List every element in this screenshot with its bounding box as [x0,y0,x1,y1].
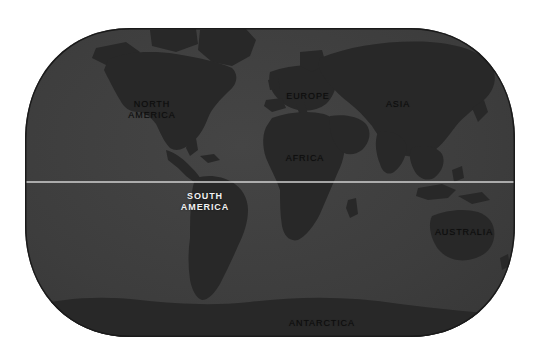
globe-body [0,0,536,364]
british-isles-landmass [268,78,280,90]
world-map-figure: NORTH AMERICA SOUTH AMERICA EUROPE AFRIC… [0,0,536,364]
world-map-graphic [0,0,536,364]
